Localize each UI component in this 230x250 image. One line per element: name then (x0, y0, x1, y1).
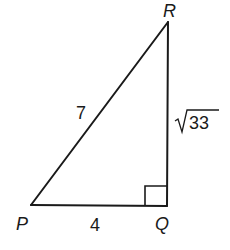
side-pq (31, 205, 167, 206)
right-angle-marker (145, 186, 167, 206)
side-label-pr: 7 (76, 103, 86, 123)
side-qr (167, 22, 168, 206)
vertex-label-q: Q (155, 214, 169, 234)
side-label-pq: 4 (90, 215, 100, 235)
side-label-qr: 33 (175, 110, 219, 133)
side-pr (31, 22, 168, 205)
right-triangle-diagram: R P Q 4 7 33 (0, 0, 230, 250)
vertex-label-p: P (16, 214, 28, 234)
vertex-label-r: R (163, 1, 176, 21)
side-label-qr-radicand: 33 (189, 113, 209, 133)
